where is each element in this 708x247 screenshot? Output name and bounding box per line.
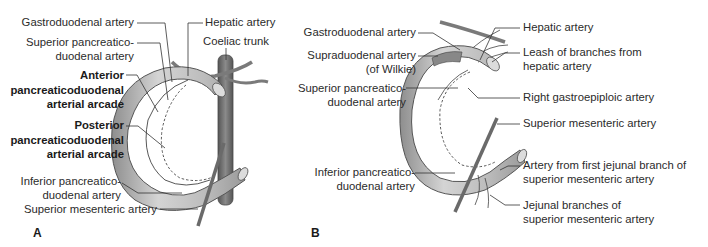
- panel-label-b: B: [311, 226, 320, 240]
- label-supraduodenal-1: Supraduodenal artery: [307, 49, 416, 63]
- label-jejunal-2: superior mesenteric artery: [523, 213, 654, 227]
- label-gastroduodenal-artery-b: Gastroduodenal artery: [304, 26, 416, 40]
- gastroduodenal-vessel-b: [440, 22, 505, 42]
- label-leash-1: Leash of branches from: [523, 46, 642, 60]
- label-anterior-arcade-3: arterial arcade: [47, 98, 124, 112]
- label-leash-2: hepatic artery: [523, 60, 591, 74]
- label-sma-a: Superior mesenteric artery: [24, 203, 157, 217]
- label-hepatic-artery-a: Hepatic artery: [205, 16, 275, 30]
- label-inferior-pd-b-1: Inferior pancreatico-: [315, 166, 415, 180]
- label-superior-pd-b-1: Superior pancreatico-: [298, 82, 406, 96]
- label-anterior-arcade-2: pancreaticoduodenal: [10, 84, 124, 98]
- pancreaticoduodenal-arteries-figure: Gastroduodenal artery Hepatic artery Coe…: [0, 0, 708, 247]
- panel-label-a: A: [33, 226, 42, 240]
- label-gastroduodenal-artery-a: Gastroduodenal artery: [22, 16, 134, 30]
- label-inferior-pd-a-2: duodenal artery: [42, 189, 121, 203]
- label-first-jejunal-1: Artery from first jejunal branch of: [523, 159, 686, 173]
- label-anterior-arcade-1: Anterior: [80, 69, 124, 83]
- label-first-jejunal-2: superior mesenteric artery: [523, 173, 654, 187]
- duodenum-b: [400, 46, 525, 195]
- label-posterior-arcade-1: Posterior: [74, 119, 124, 133]
- label-superior-pd-a-2: duodenal artery: [55, 50, 134, 64]
- label-supraduodenal-2: (of Wilkie): [366, 63, 416, 77]
- sma-vessel-b: [455, 118, 497, 212]
- label-posterior-arcade-3: arterial arcade: [47, 148, 124, 162]
- figure-a-illustration: [111, 55, 268, 226]
- label-superior-pd-b-2: duodenal artery: [327, 96, 406, 110]
- label-jejunal-1: Jejunal branches of: [523, 199, 621, 213]
- label-hepatic-artery-b: Hepatic artery: [523, 21, 593, 35]
- label-posterior-arcade-2: pancreaticoduodenal: [10, 134, 124, 148]
- label-coeliac-trunk: Coeliac trunk: [203, 35, 269, 49]
- label-sma-b: Superior mesenteric artery: [523, 117, 656, 131]
- label-inferior-pd-a-1: Inferior pancreatico-: [21, 175, 121, 189]
- label-superior-pd-a-1: Superior pancreatico-: [26, 36, 134, 50]
- label-inferior-pd-b-2: duodenal artery: [336, 180, 415, 194]
- figure-b-illustration: [400, 22, 529, 212]
- label-right-gastroepiploic: Right gastroepiploic artery: [523, 91, 654, 105]
